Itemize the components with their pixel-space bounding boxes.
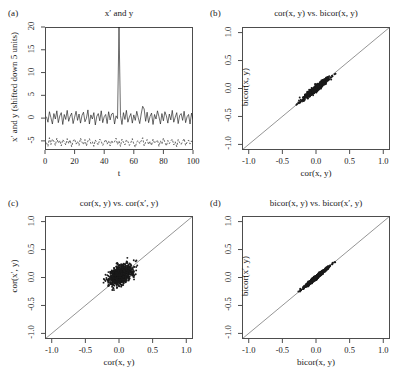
panel-a-x-tick-label: 100 — [173, 156, 213, 166]
panel-c-x-tick-label: 1.0 — [166, 345, 206, 355]
panel-d-point — [319, 275, 321, 277]
panel-a-y-tick-label: 5 — [26, 82, 36, 106]
panel-d-point — [326, 268, 328, 270]
panel-c-y-tick-label: 0.5 — [26, 237, 36, 261]
panel-d-point — [311, 280, 313, 282]
panel-d-point — [297, 291, 299, 293]
figure-panel-grid: (a) x′ and y x′ and y (shifted down 5 un… — [0, 0, 404, 381]
panel-d-point — [319, 273, 321, 275]
panel-c-y-tick-label: -0.5 — [26, 292, 36, 316]
panel-d-point — [307, 282, 309, 284]
panel-c-y-tick-label: 1.0 — [26, 209, 36, 233]
panel-d-point — [304, 285, 306, 287]
panel-d-y-tick-label: -1.0 — [223, 320, 233, 344]
panel-a-y-tick-label: 0 — [26, 105, 36, 129]
panel-d-point — [300, 289, 302, 291]
panel-b-x-tick-label: 1.0 — [363, 156, 403, 166]
panel-d-point — [334, 261, 336, 263]
panel-b-y-tick-label: 1.0 — [223, 20, 233, 44]
panel-d-y-tick-label: 1.0 — [223, 209, 233, 233]
panel-d-x-axis-label: bicor(x, y) — [242, 357, 390, 367]
panel-d-y-axis-label: bicor(x′, y) — [240, 211, 250, 341]
panel-d-y-tick-label: -0.5 — [223, 292, 233, 316]
panel-d-point — [302, 286, 304, 288]
panel-a-y-tick-label: 10 — [26, 60, 36, 84]
panel-a-y-tick-label: 15 — [26, 37, 36, 61]
panel-d-point — [321, 273, 323, 275]
panel-b-y-tick-label: 0.0 — [223, 76, 233, 100]
panel-a-y-tick-label: 20 — [26, 14, 36, 38]
panel-d-scatter-layer — [0, 0, 404, 381]
panel-b-y-tick-label: -1.0 — [223, 131, 233, 155]
panel-d-point — [328, 266, 330, 268]
panel-c-y-tick-label: 0.0 — [26, 265, 36, 289]
panel-d-point — [332, 262, 334, 264]
panel-b-y-tick-label: -0.5 — [223, 103, 233, 127]
panel-d-point — [314, 277, 316, 279]
panel-b-y-tick-label: 0.5 — [223, 48, 233, 72]
panel-d-y-tick-label: 0.5 — [223, 237, 233, 261]
panel-a-y-tick-label: -5 — [26, 128, 36, 152]
panel-d-y-tick-label: 0.0 — [223, 265, 233, 289]
panel-c-y-tick-label: -1.0 — [26, 320, 36, 344]
panel-d-point — [310, 282, 312, 284]
panel-d-point — [302, 288, 304, 290]
panel-d-x-tick-label: 1.0 — [363, 345, 403, 355]
